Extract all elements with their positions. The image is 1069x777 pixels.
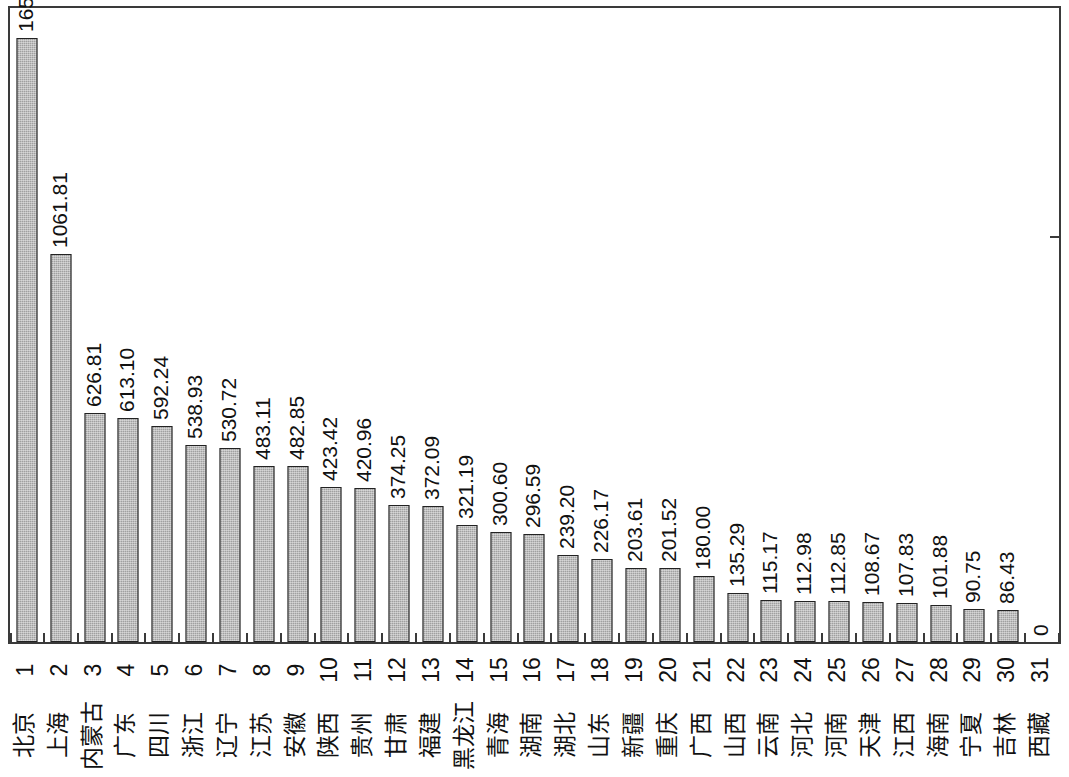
x-axis-category-label: 内蒙古 [81,701,105,770]
x-axis-label-slot: 3内蒙古 [76,646,110,777]
bar[interactable] [253,466,274,642]
x-axis-label-slot: 27江西 [888,646,922,777]
x-axis-index-cell: 16 [516,650,550,690]
bar[interactable] [84,413,105,642]
x-axis-index-label: 14 [453,657,476,683]
bar-slot: 483.11 [247,8,281,642]
bar[interactable] [998,610,1019,642]
bar[interactable] [761,600,782,642]
bar[interactable] [930,605,951,642]
x-axis-category-label: 江西 [893,712,917,758]
x-axis-category-cell: 江西 [888,694,922,776]
x-axis-index-label: 30 [995,657,1018,683]
bar-slot: 112.85 [822,8,856,642]
bar[interactable] [727,593,748,642]
x-axis-index-cell: 28 [922,650,956,690]
bar[interactable] [219,448,240,642]
bar-value-label: 530.72 [218,378,239,442]
bar[interactable] [389,505,410,642]
bar[interactable] [626,568,647,642]
x-axis-labels: 1北京2上海3内蒙古4广东5四川6浙江7辽宁8江苏9安徽10陕西11贵州12甘肃… [8,646,1061,777]
x-axis-category-label: 新疆 [622,712,646,758]
x-axis-category-cell: 江苏 [245,694,279,776]
bar-slot: 626.81 [78,8,112,642]
x-axis-category-label: 海南 [927,712,951,758]
bar[interactable] [186,445,207,642]
x-axis-index-label: 8 [250,664,273,677]
bar[interactable] [16,38,37,642]
bar[interactable] [558,555,579,642]
x-axis-label-slot: 8江苏 [245,646,279,777]
x-axis-category-cell: 贵州 [346,694,380,776]
x-axis-index-label: 15 [487,657,510,683]
x-axis-index-label: 16 [521,657,544,683]
bar[interactable] [964,609,985,642]
x-axis-index-cell: 25 [820,650,854,690]
x-axis-category-label: 吉林 [994,712,1018,758]
bar[interactable] [829,601,850,642]
bar-value-label: 372.09 [421,436,442,500]
x-axis-index-label: 12 [386,657,409,683]
x-axis-category-cell: 黑龙江 [448,694,482,776]
bar[interactable] [693,576,714,642]
x-axis-category-label: 福建 [419,712,443,758]
bar[interactable] [50,254,71,642]
bar[interactable] [355,488,376,642]
bar[interactable] [896,603,917,642]
x-axis-category-label: 西藏 [1028,712,1052,758]
bar-value-label: 374.25 [387,435,408,499]
x-axis-index-cell: 10 [313,650,347,690]
bar[interactable] [795,601,816,642]
x-axis-category-cell: 青海 [482,694,516,776]
bar[interactable] [152,426,173,642]
x-axis-category-label: 山东 [588,712,612,758]
x-axis-category-label: 山西 [724,712,748,758]
x-axis-category-label: 云南 [757,712,781,758]
bar-value-label: 538.93 [184,375,205,439]
x-axis-label-slot: 24河北 [786,646,820,777]
x-axis-label-slot: 7辽宁 [211,646,245,777]
bar-value-label: 300.60 [489,462,510,526]
bar[interactable] [659,568,680,642]
bar-value-label: 226.17 [590,489,611,553]
x-axis-category-label: 黑龙江 [453,701,477,770]
bar-slot: 115.17 [754,8,788,642]
bar[interactable] [862,602,883,642]
bar[interactable] [422,506,443,642]
x-axis-category-label: 宁夏 [960,712,984,758]
x-axis-category-cell: 河南 [820,694,854,776]
x-axis-label-slot: 31西藏 [1023,646,1057,777]
x-axis-category-label: 江苏 [250,712,274,758]
x-axis-label-slot: 18山东 [583,646,617,777]
x-axis-index-label: 18 [589,657,612,683]
x-axis-label-slot: 26天津 [854,646,888,777]
x-axis-label-slot: 6浙江 [177,646,211,777]
x-axis-index-cell: 15 [482,650,516,690]
bar-value-label: 321.19 [455,455,476,519]
bar[interactable] [456,525,477,642]
x-axis-category-cell: 湖北 [549,694,583,776]
x-axis-index-cell: 2 [42,650,76,690]
x-axis-label-slot: 12甘肃 [380,646,414,777]
x-axis-category-cell: 新疆 [617,694,651,776]
x-axis-category-cell: 福建 [414,694,448,776]
bar[interactable] [287,466,308,642]
bar-slot: 107.83 [890,8,924,642]
x-axis-index-cell: 20 [651,650,685,690]
bar[interactable] [118,418,139,642]
x-axis-index-label: 1 [13,664,36,677]
x-axis-category-label: 甘肃 [385,712,409,758]
bar-value-label: 1654.97 [15,0,36,32]
x-axis-index-cell: 5 [143,650,177,690]
bar-slot: 613.10 [112,8,146,642]
plot-frame: 1654.971061.81626.81613.10592.24538.9353… [8,6,1061,644]
x-axis-category-label: 浙江 [182,712,206,758]
bar-value-label: 420.96 [353,418,374,482]
x-axis-label-slot: 11贵州 [346,646,380,777]
bar[interactable] [592,559,613,642]
bar[interactable] [490,532,511,642]
bar-slot: 1061.81 [44,8,78,642]
bar[interactable] [524,534,545,642]
bar[interactable] [321,487,342,642]
x-axis-category-cell: 陕西 [313,694,347,776]
